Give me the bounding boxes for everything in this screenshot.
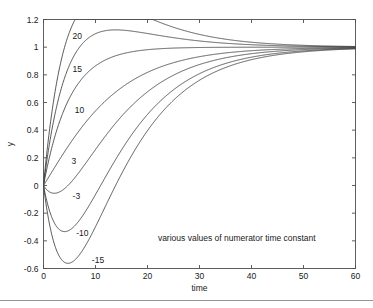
chart-figure: 0102030405060-0.6-0.4-0.200.20.40.60.811…	[0, 0, 373, 308]
x-tick-label: 50	[299, 271, 309, 281]
x-tick-label: 40	[247, 271, 257, 281]
y-tick-label: 0.8	[27, 70, 39, 80]
curve-label--3: -3	[73, 191, 81, 201]
y-tick-label: 1.2	[27, 15, 39, 25]
curve-label-20: 20	[73, 31, 83, 41]
y-tick-label: 0	[34, 181, 39, 191]
y-tick-label: -0.2	[24, 208, 39, 218]
x-axis-title: time	[191, 283, 207, 293]
step-response-plot: 0102030405060-0.6-0.4-0.200.20.40.60.811…	[0, 0, 373, 308]
x-tick-label: 60	[351, 271, 361, 281]
y-tick-label: -0.6	[24, 264, 39, 274]
y-tick-label: 0.4	[27, 125, 39, 135]
plot-annotation: various values of numerator time constan…	[158, 233, 316, 243]
x-tick-label: 20	[143, 271, 153, 281]
curve-label-10: 10	[75, 105, 85, 115]
x-tick-label: 0	[41, 271, 46, 281]
x-tick-label: 30	[195, 271, 205, 281]
curve-label--10: -10	[76, 228, 89, 238]
y-tick-label: 0.2	[27, 153, 39, 163]
curve-label--15: -15	[92, 255, 105, 265]
y-tick-label: 0.6	[27, 98, 39, 108]
x-tick-label: 10	[91, 271, 101, 281]
curve-label-3: 3	[72, 156, 77, 166]
y-tick-label: -0.4	[24, 236, 39, 246]
y-tick-label: 1	[34, 42, 39, 52]
curve-label-15: 15	[73, 64, 83, 74]
